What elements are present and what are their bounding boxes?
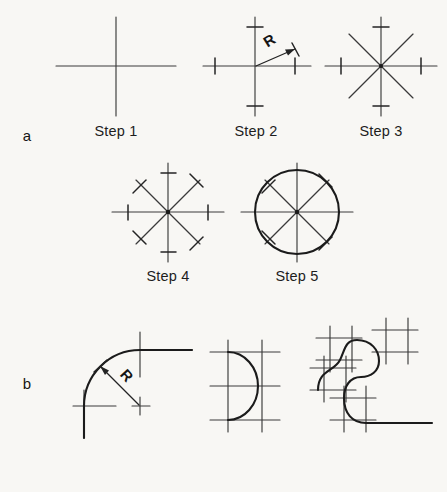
step4-center-point bbox=[166, 210, 170, 214]
step-1-diagram bbox=[56, 17, 176, 116]
step-5-caption: Step 5 bbox=[275, 268, 318, 284]
step-3-caption: Step 3 bbox=[359, 123, 402, 139]
panel-label-a: a bbox=[23, 127, 32, 144]
step-4-caption: Step 4 bbox=[146, 268, 189, 284]
panel-label-b: b bbox=[23, 375, 31, 392]
step-5-diagram bbox=[241, 163, 353, 262]
b1-radius-label-group: R bbox=[117, 366, 137, 386]
step5-center-point bbox=[295, 210, 299, 214]
b1-radius-label: R bbox=[117, 366, 137, 386]
step3-center-point bbox=[379, 64, 383, 68]
step-3-diagram bbox=[325, 17, 437, 116]
panel-b: b R bbox=[23, 318, 432, 438]
step2-arrowhead-icon bbox=[285, 49, 295, 56]
step-1-caption: Step 1 bbox=[94, 123, 137, 139]
step4-tick-diagonal-ne bbox=[190, 174, 203, 187]
step4-tick-diagonal-nw bbox=[133, 180, 146, 193]
step4-tick-diagonal-se bbox=[190, 237, 203, 250]
b-stage-2-diagram bbox=[210, 340, 280, 432]
technical-drawing-figure: a Step 1 Step 2 Step 3 Step 4 Step 5 R bbox=[0, 0, 447, 492]
panel-a: a Step 1 Step 2 Step 3 Step 4 Step 5 R bbox=[23, 17, 437, 284]
step-2-caption: Step 2 bbox=[234, 123, 277, 139]
step4-tick-diagonal-sw bbox=[133, 231, 146, 244]
step2-radius-label-group: R bbox=[260, 30, 278, 50]
step-4-diagram bbox=[112, 163, 224, 262]
step-2-diagram bbox=[203, 17, 311, 116]
b-stage-3-diagram bbox=[310, 318, 432, 432]
figure-canvas: a Step 1 Step 2 Step 3 Step 4 Step 5 R bbox=[0, 0, 447, 492]
step2-radius-label: R bbox=[260, 30, 278, 50]
b-stage-1-diagram bbox=[73, 332, 192, 438]
